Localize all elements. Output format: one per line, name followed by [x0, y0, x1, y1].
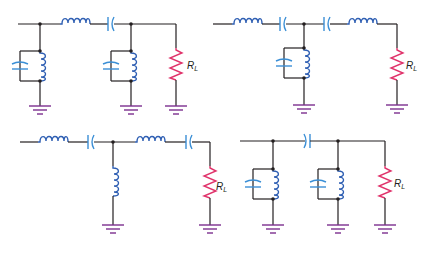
- series-capacitor-icon: [186, 135, 192, 149]
- load-label: RL: [216, 181, 227, 193]
- circuit-bottom-right: RL: [240, 134, 405, 233]
- lc-tank-icon: [310, 167, 344, 201]
- load-label: RL: [406, 60, 417, 72]
- ground-icon: [374, 225, 396, 233]
- ground-icon: [199, 225, 221, 233]
- ground-icon: [165, 106, 187, 114]
- circuit-top-left: RL: [12, 17, 198, 114]
- lc-tank-icon: [245, 167, 279, 201]
- ground-icon: [102, 225, 124, 233]
- load-resistor-icon: [379, 166, 391, 198]
- lc-tank-icon: [103, 49, 137, 83]
- ground-icon: [327, 225, 349, 233]
- filter-circuits-figure: RL RL: [0, 0, 423, 253]
- series-capacitor-icon: [88, 135, 94, 149]
- load-label: RL: [187, 60, 198, 72]
- series-capacitor-icon: [324, 17, 330, 31]
- ground-icon: [29, 106, 51, 114]
- series-inductor-icon: [135, 137, 165, 143]
- ground-icon: [262, 225, 284, 233]
- load-resistor-icon: [204, 166, 216, 198]
- series-inductor-icon: [232, 19, 262, 25]
- ground-icon: [120, 106, 142, 114]
- series-inductor-icon: [60, 19, 90, 25]
- load-resistor-icon: [391, 48, 403, 80]
- series-capacitor-icon: [108, 17, 114, 31]
- load-label: RL: [394, 178, 405, 190]
- shunt-inductor-icon: [113, 166, 119, 196]
- ground-icon: [386, 105, 408, 113]
- circuit-top-right: RL: [213, 17, 417, 113]
- series-inductor-icon: [38, 137, 68, 143]
- series-capacitor-icon: [280, 17, 286, 31]
- circuit-bottom-left: RL: [20, 135, 227, 233]
- load-resistor-icon: [170, 48, 182, 80]
- ground-icon: [293, 105, 315, 113]
- series-inductor-icon: [347, 19, 377, 25]
- lc-tank-icon: [12, 49, 46, 83]
- lc-tank-icon: [276, 46, 310, 80]
